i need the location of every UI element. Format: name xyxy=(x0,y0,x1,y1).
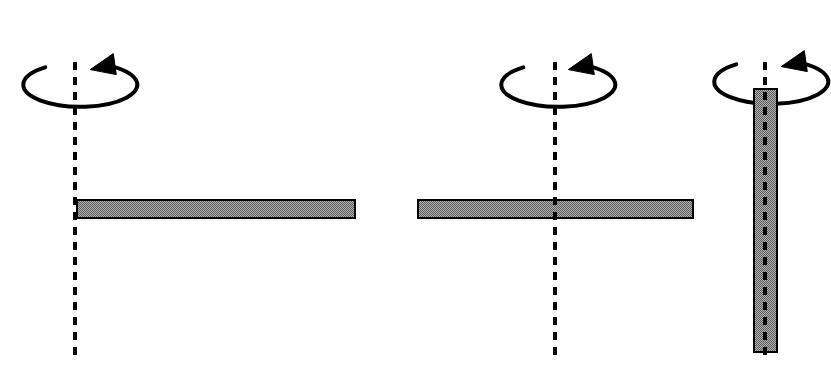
physics-rotation-diagram xyxy=(0,0,831,378)
horizontal-rod xyxy=(76,199,356,219)
diagram-svg xyxy=(0,0,831,378)
rod-hatch-pattern xyxy=(76,199,356,219)
diagram-background xyxy=(0,0,831,378)
